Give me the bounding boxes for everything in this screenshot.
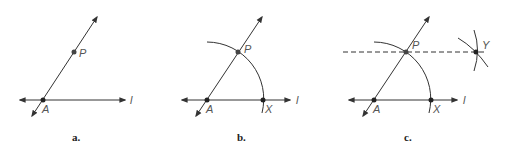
panel-c: P Y A X l c.	[343, 17, 490, 143]
panel-a: P A l a.	[20, 17, 133, 143]
label-a: A	[372, 103, 380, 115]
arc-from-a	[207, 42, 264, 113]
label-l: l	[463, 94, 466, 106]
point-a	[372, 98, 377, 103]
label-p: P	[412, 39, 420, 51]
label-a: A	[41, 103, 49, 115]
label-x: X	[432, 103, 441, 115]
construction-diagram: P A l a. P A X l b. P Y A X l c.	[0, 0, 507, 148]
label-a: A	[205, 103, 213, 115]
caption-a: a.	[72, 131, 81, 143]
panel-b: P A X l b.	[182, 17, 299, 143]
point-a	[205, 98, 210, 103]
point-p	[404, 50, 409, 55]
point-p	[236, 50, 241, 55]
point-x	[261, 98, 266, 103]
label-p: P	[244, 43, 252, 55]
label-l: l	[130, 94, 133, 106]
caption-c: c.	[404, 131, 412, 143]
label-x: X	[264, 103, 273, 115]
arc-from-a	[374, 42, 431, 113]
point-x	[429, 98, 434, 103]
point-a	[41, 98, 46, 103]
label-p: P	[79, 47, 87, 59]
point-y	[474, 50, 479, 55]
point-p	[72, 50, 77, 55]
caption-b: b.	[237, 131, 246, 143]
label-y: Y	[482, 39, 490, 51]
label-l: l	[296, 94, 299, 106]
